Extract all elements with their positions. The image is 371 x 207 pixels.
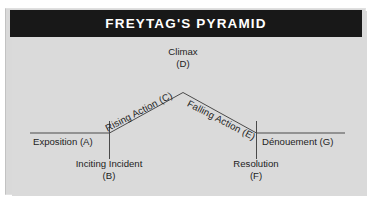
page-title: FREYTAG'S PYRAMID bbox=[105, 17, 266, 31]
resolution-key-label: (F) bbox=[250, 170, 262, 182]
inciting-incident-label: Inciting Incident bbox=[76, 158, 143, 170]
inciting-incident-key-label: (B) bbox=[103, 170, 116, 182]
climax-label: Climax bbox=[168, 46, 197, 58]
climax-key-label: (D) bbox=[176, 58, 189, 70]
exposition-label: Exposition (A) bbox=[33, 136, 93, 148]
denouement-label: Dénouement (G) bbox=[262, 136, 333, 148]
resolution-label: Resolution bbox=[233, 158, 278, 170]
freytags-pyramid-figure: FREYTAG'S PYRAMID Climax (D) Rising Acti… bbox=[0, 0, 371, 207]
figure-title-bar: FREYTAG'S PYRAMID bbox=[10, 10, 362, 37]
